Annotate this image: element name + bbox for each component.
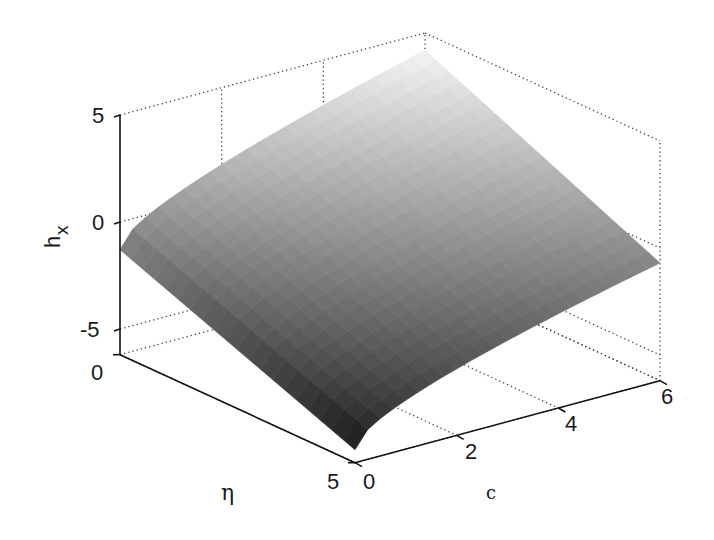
eta-tick-label-0: 0	[91, 360, 103, 385]
c-tick-label-6: 6	[661, 384, 673, 409]
z-tick-label-5: 5	[92, 103, 104, 128]
z-axis-label-main: h	[40, 236, 65, 248]
z-tick	[114, 222, 120, 224]
c-tick	[457, 435, 464, 439]
c-tick-label-2: 2	[465, 439, 477, 464]
z-tick-label-0: 0	[92, 210, 104, 235]
surface-plot-figure: 5 0 -5 0 5 0 2 4 6 h x η c	[0, 0, 714, 540]
eta-axis-label: η	[221, 480, 234, 505]
z-tick	[114, 115, 120, 117]
z-axis-label: h x	[40, 225, 72, 248]
z-axis-label-sub: x	[51, 225, 72, 235]
c-axis-label: c	[486, 482, 496, 503]
c-tick-label-0: 0	[363, 469, 375, 494]
surface-plot: 5 0 -5 0 5 0 2 4 6 h x η c	[0, 0, 714, 540]
c-tick	[355, 463, 362, 467]
z-tick-label-neg5: -5	[80, 317, 100, 342]
c-tick-label-4: 4	[565, 411, 577, 436]
z-tick	[114, 329, 120, 331]
eta-tick-label-5: 5	[327, 469, 339, 494]
surface	[120, 50, 660, 450]
